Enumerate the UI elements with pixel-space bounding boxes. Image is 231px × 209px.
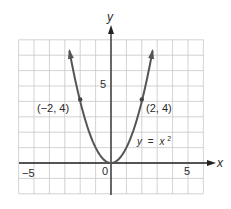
equation-y: y	[136, 136, 143, 147]
equation-eq: =	[148, 136, 154, 147]
point-2-4	[140, 97, 144, 101]
equation-exp: 2	[167, 135, 171, 142]
point-neg2-4	[78, 97, 82, 101]
graph-canvas: x y −5 0 5 5 (−2, 4) (2, 4) y = x 2	[0, 0, 231, 209]
tick-label-origin: 0	[102, 165, 108, 177]
y-axis-arrow-icon	[108, 25, 114, 34]
y-axis-label: y	[106, 10, 114, 24]
curve-arrow-left-icon	[68, 49, 74, 59]
equation-x: x	[158, 136, 165, 147]
point-label-left: (−2, 4)	[37, 102, 69, 114]
equation-label: y = x 2	[136, 135, 171, 147]
x-axis-label: x	[216, 156, 224, 170]
tick-label-neg5: −5	[22, 167, 35, 179]
tick-label-y5: 5	[100, 78, 106, 90]
point-label-right: (2, 4)	[146, 102, 172, 114]
tick-label-pos5: 5	[184, 165, 190, 177]
curve-arrow-right-icon	[148, 49, 154, 59]
x-axis-arrow-icon	[207, 160, 216, 166]
